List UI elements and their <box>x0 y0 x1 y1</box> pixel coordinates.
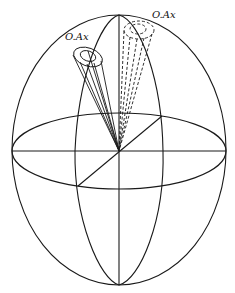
dashed-cone-label: O.Ax <box>152 9 176 20</box>
dashed-cone <box>119 21 154 151</box>
solid-cone <box>71 43 119 151</box>
sphere-diagram <box>0 0 235 293</box>
solid-cone-label: O.Ax <box>65 31 89 42</box>
